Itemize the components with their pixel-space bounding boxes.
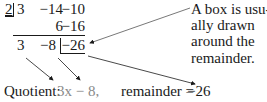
arrow-to-quotient-8 (58, 58, 80, 80)
arrow-to-remainder-value (88, 56, 195, 84)
remainder-result: −26 (187, 84, 210, 99)
arrow-to-quotient-3 (26, 58, 53, 80)
quotient-value: 3x − 8, (57, 84, 99, 99)
quotient-label: Quotient: (4, 84, 61, 99)
arrow-to-remainder-box (90, 8, 190, 43)
